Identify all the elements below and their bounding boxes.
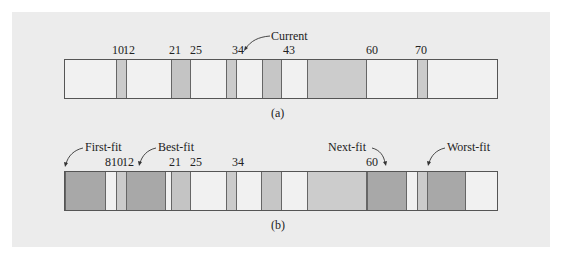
- pointer-arrows: [0, 0, 564, 260]
- current-arrow-icon: [246, 36, 270, 48]
- best-fit-arrow-icon: [140, 148, 156, 163]
- worst-fit-arrow-icon: [429, 148, 445, 163]
- next-fit-arrow-icon: [372, 148, 385, 163]
- first-fit-arrow-icon: [66, 148, 83, 164]
